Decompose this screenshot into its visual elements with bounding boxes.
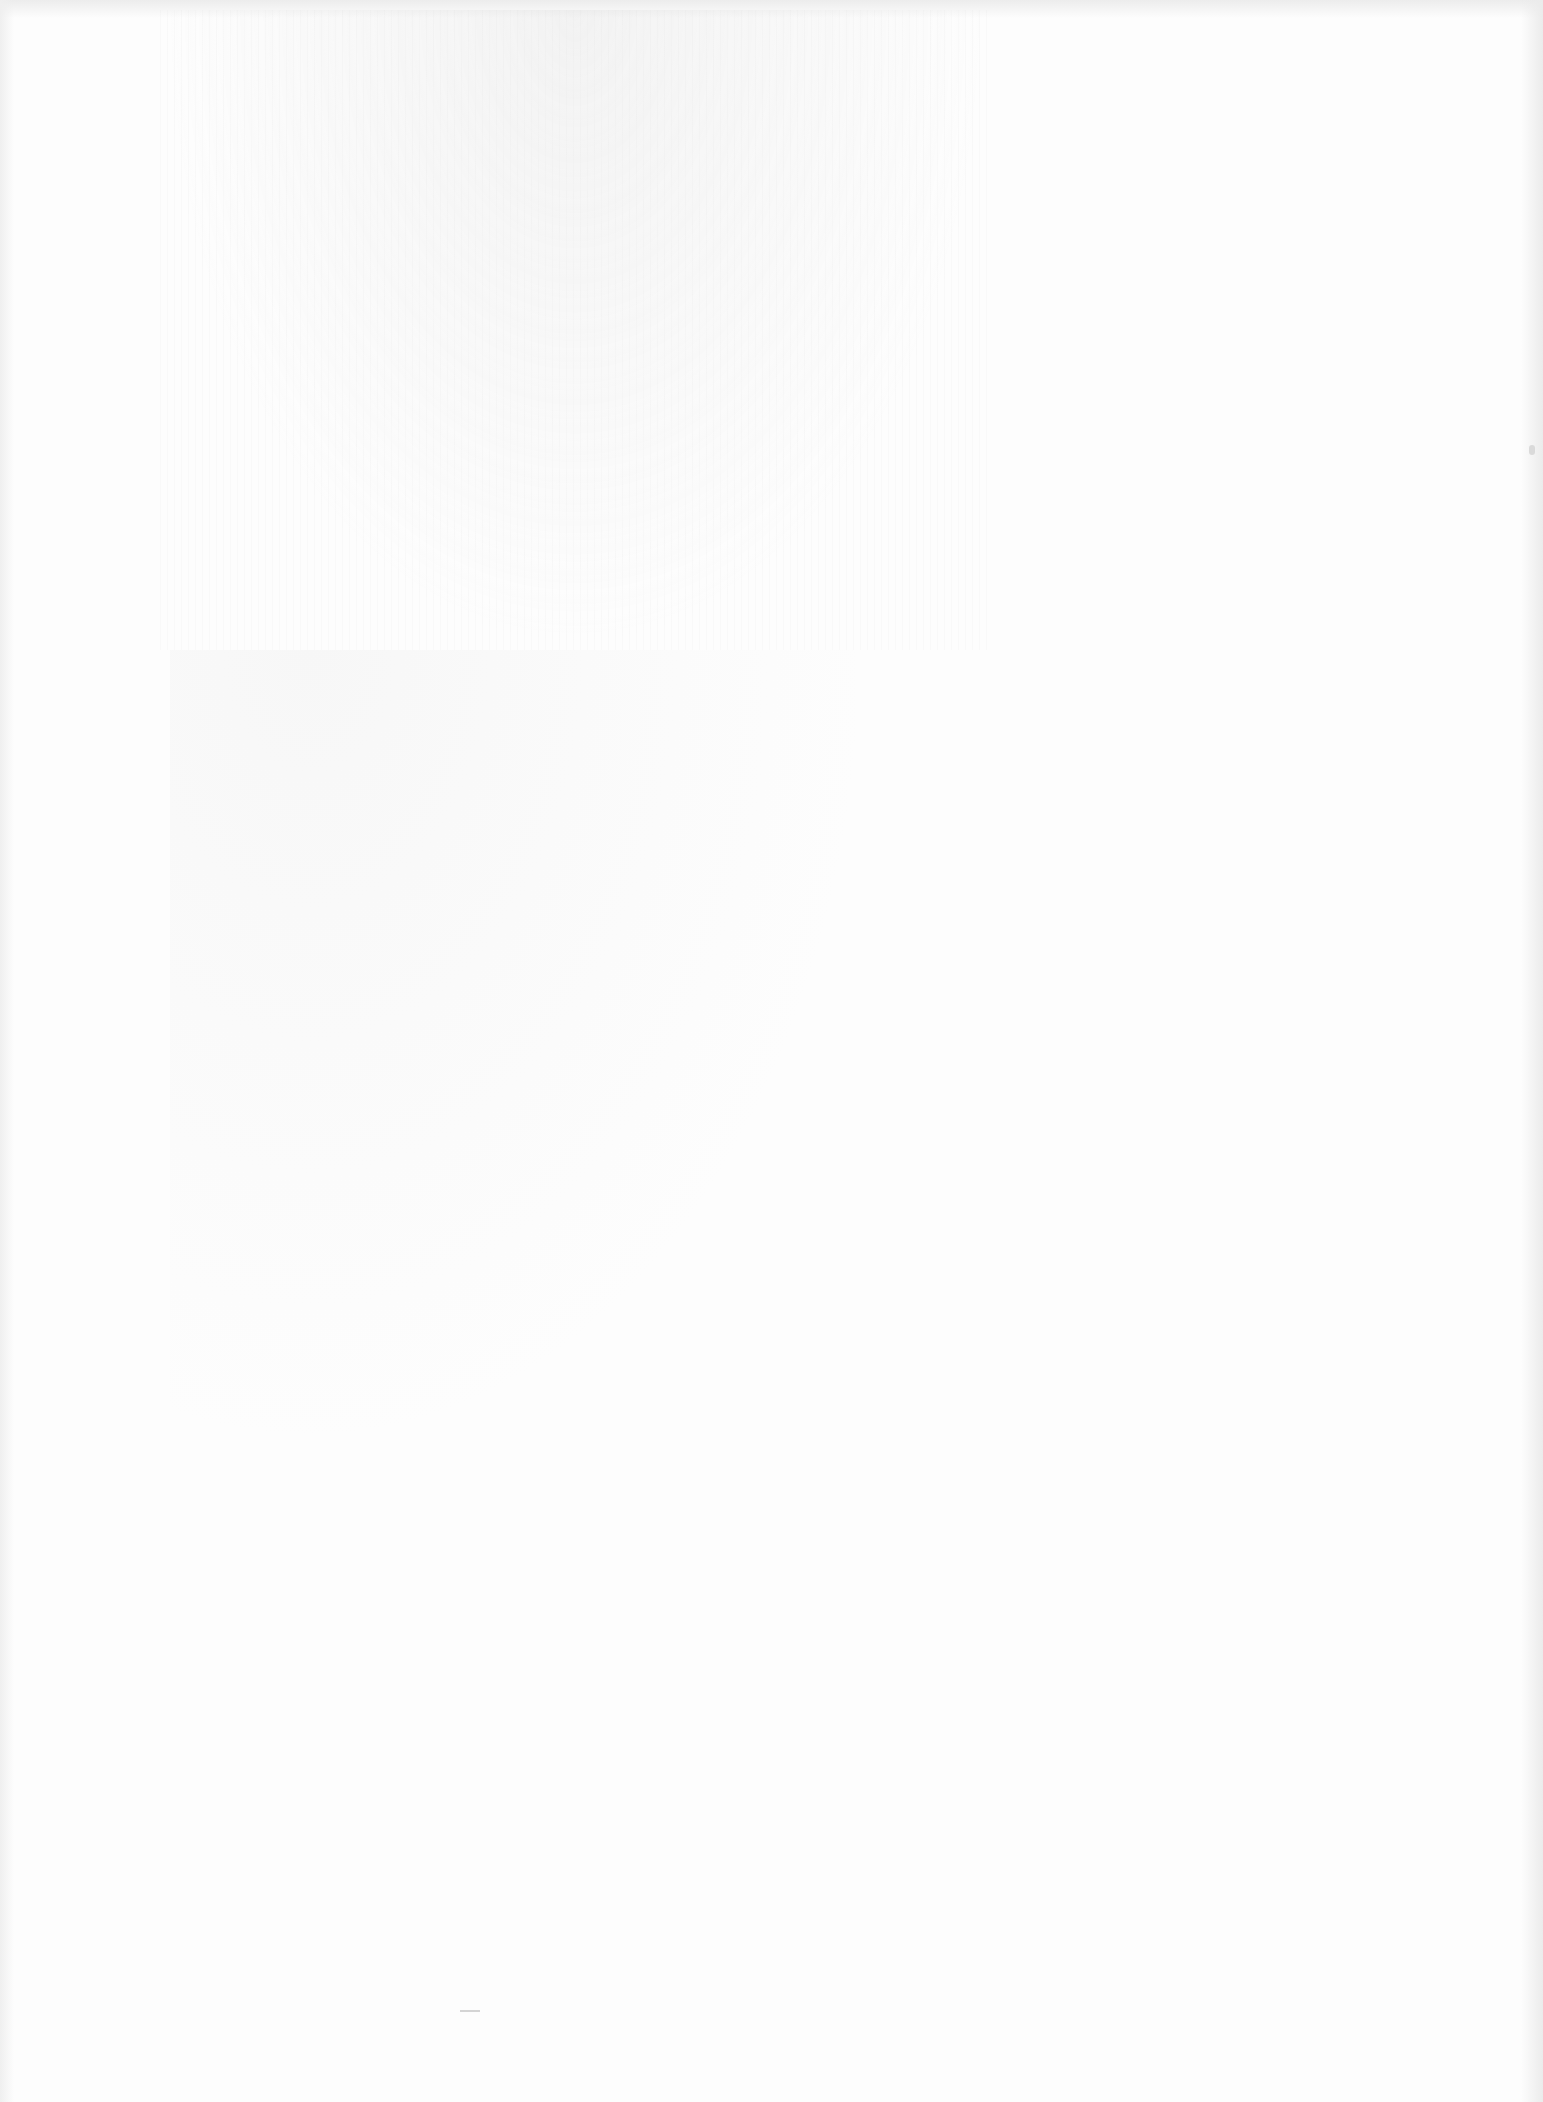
scan-edge-right: [1521, 0, 1543, 2102]
scan-edge-left: [0, 0, 14, 2102]
blank-page: [0, 0, 1543, 2102]
stray-mark: [460, 2010, 480, 2012]
bleed-through-texture: [160, 10, 990, 650]
bleed-through-texture-lower: [170, 650, 870, 1450]
edge-speck: [1529, 445, 1535, 455]
